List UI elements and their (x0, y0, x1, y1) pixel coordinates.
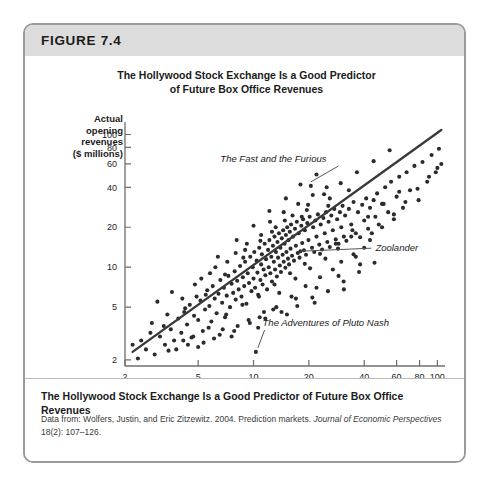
scatter-point (403, 200, 407, 204)
scatter-point (328, 196, 332, 200)
scatter-point (231, 291, 235, 295)
scatter-point (284, 250, 288, 254)
scatter-point (281, 253, 285, 257)
scatter-point (329, 214, 333, 218)
scatter-point (170, 290, 174, 294)
scatter-point (335, 217, 339, 221)
y-tick-label: 2 (112, 355, 117, 365)
scatter-point (139, 338, 143, 342)
scatter-point (195, 295, 199, 299)
scatter-point (368, 206, 372, 210)
plot-area: The Hollywood Stock Exchange Is a Good P… (25, 56, 466, 378)
scatter-point (377, 222, 381, 226)
scatter-point (253, 286, 257, 290)
scatter-point (248, 255, 252, 259)
scatter-point (266, 248, 270, 252)
scatter-point (437, 147, 441, 151)
scatter-point (290, 295, 294, 299)
scatter-point (225, 294, 229, 298)
scatter-point (313, 301, 317, 305)
scatter-point (343, 214, 347, 218)
scatter-point (240, 303, 244, 307)
scatter-point (237, 287, 241, 291)
scatter-point (272, 235, 276, 239)
scatter-point (213, 265, 217, 269)
scatter-point (196, 318, 200, 322)
scatter-point (150, 321, 154, 325)
scatter-point (246, 271, 250, 275)
scatter-point (323, 231, 327, 235)
scatter-point (434, 170, 438, 174)
scatter-point (204, 293, 208, 297)
scatter-point (271, 307, 275, 311)
scatter-point (238, 264, 242, 268)
scatter-point (277, 231, 281, 235)
scatter-point (258, 315, 262, 319)
scatter-point (243, 260, 247, 264)
scatter-point (199, 277, 203, 281)
scatter-point (356, 210, 360, 214)
scatter-point (303, 262, 307, 266)
scatter-point (271, 244, 275, 248)
scatter-point (262, 267, 266, 271)
scatter-point (435, 166, 439, 170)
scatter-point (323, 257, 327, 261)
scatter-point (280, 236, 284, 240)
scatter-point (325, 185, 329, 189)
scatter-point (270, 230, 274, 234)
scatter-point (408, 188, 412, 192)
scatter-point (299, 224, 303, 228)
scatter-point (223, 273, 227, 277)
scatter-point (355, 170, 359, 174)
scatter-point (309, 184, 313, 188)
scatter-point (420, 160, 424, 164)
scatter-point (342, 287, 346, 291)
scatter-point (306, 203, 310, 207)
scatter-point (224, 312, 228, 316)
scatter-point (225, 260, 229, 264)
scatter-point (155, 300, 159, 304)
scatter-point (322, 192, 326, 196)
scatter-point (258, 239, 262, 243)
scatter-point (294, 297, 298, 301)
scatter-point (251, 224, 255, 228)
scatter-point (380, 225, 384, 229)
scatter-point (331, 228, 335, 232)
scatter-point (310, 296, 314, 300)
figure-card: FIGURE 7.4 The Hollywood Stock Exchange … (23, 23, 466, 463)
scatter-point (279, 270, 283, 274)
scatter-point (293, 227, 297, 231)
scatter-point (308, 215, 312, 219)
scatter-point (281, 228, 285, 232)
scatter-point (300, 215, 304, 219)
scatter-point (218, 333, 222, 337)
scatter-point (358, 262, 362, 266)
scatter-point (239, 295, 243, 299)
scatter-point (293, 277, 297, 281)
y-tick-label: 5 (112, 302, 117, 312)
annotation-label: The Fast and the Furious (220, 153, 326, 164)
scatter-point (269, 255, 273, 259)
source-prefix: Data from: (41, 414, 83, 424)
scatter-point (311, 225, 315, 229)
scatter-point (234, 251, 238, 255)
scatter-point (325, 240, 329, 244)
scatter-point (228, 305, 232, 309)
scatter-point (209, 319, 213, 323)
scatter-point (318, 252, 322, 256)
scatter-point (272, 282, 276, 286)
scatter-point (245, 242, 249, 246)
scatter-point (259, 233, 263, 237)
scatter-point (289, 222, 293, 226)
scatter-point (389, 180, 393, 184)
scatter-point (275, 240, 279, 244)
scatter-point (265, 287, 269, 291)
scatter-point (285, 225, 289, 229)
scatter-point (192, 314, 196, 318)
scatter-point (304, 253, 308, 257)
scatter-point (392, 217, 396, 221)
scatter-point (286, 257, 290, 261)
scatter-point (274, 225, 278, 229)
scatter-point (201, 329, 205, 333)
scatter-point (334, 242, 338, 246)
